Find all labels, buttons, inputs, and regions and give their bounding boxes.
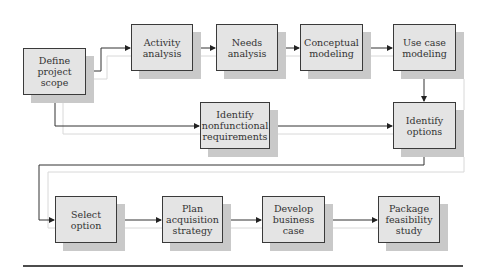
node-label: Develop business case [273,203,315,236]
node-label: Package feasibility study [385,203,432,236]
node-plan-acquisition-strategy: Plan acquisition strategy [162,196,223,243]
node-label: Define project scope [24,55,85,88]
node-package-feasibility-study: Package feasibility study [378,196,440,243]
node-label: Conceptual modeling [304,37,359,59]
node-develop-business-case: Develop business case [262,196,325,243]
node-activity-analysis: Activity analysis [131,24,193,71]
node-define-project-scope: Define project scope [23,48,86,95]
node-needs-analysis: Needs analysis [216,24,278,71]
node-label: Select option [56,209,116,231]
node-label: Needs analysis [228,37,267,59]
node-label: Identify nonfunctional requirements [202,109,268,142]
node-conceptual-modeling: Conceptual modeling [300,24,363,71]
node-identify-options: Identify options [393,102,456,149]
node-label: Plan acquisition strategy [166,203,219,236]
node-select-option: Select option [55,196,117,243]
node-label: Use case modeling [402,37,447,59]
node-use-case-modeling: Use case modeling [393,24,456,71]
node-label: Identify options [406,115,443,137]
node-label: Activity analysis [143,37,182,59]
node-identify-nonfunctional-requirements: Identify nonfunctional requirements [200,102,270,149]
